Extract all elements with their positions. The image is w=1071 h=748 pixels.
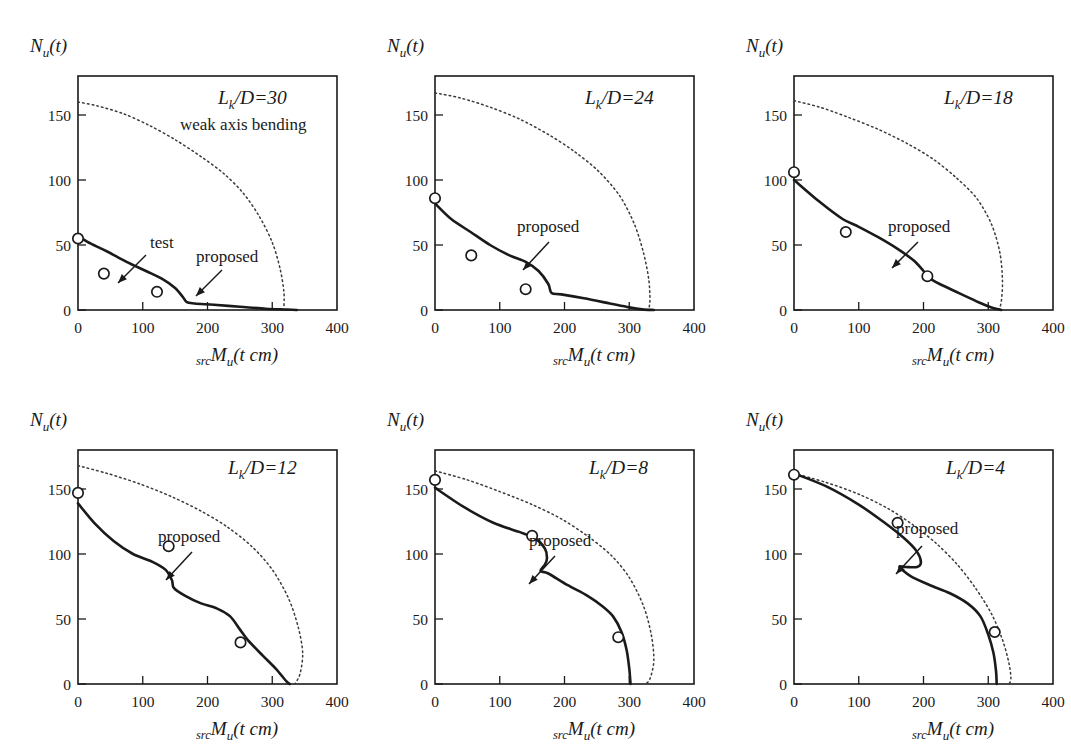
y-axis-title: Nu(t): [29, 35, 67, 60]
axis-ticks: 0501001500100200300400: [764, 481, 1065, 711]
proposed-annotation-arrow: [523, 242, 549, 270]
x-tick-label: 400: [1041, 319, 1065, 336]
panel-label: Lk/D=18: [943, 87, 1013, 112]
y-tick-label: 100: [764, 546, 788, 563]
test-point-marker: [990, 627, 1000, 637]
y-axis-title: Nu(t): [386, 35, 424, 60]
svg-text:Nu(t): Nu(t): [386, 35, 424, 60]
test-point-marker: [841, 227, 851, 237]
svg-text:srcMu(t cm): srcMu(t cm): [912, 344, 994, 369]
test-point-marker: [922, 271, 932, 281]
plot-frame: [794, 450, 1053, 684]
axis-ticks: 0501001500100200300400: [405, 481, 706, 711]
test-points: [430, 475, 624, 643]
y-tick-label: 50: [772, 611, 788, 628]
test-point-marker: [430, 193, 440, 203]
y-axis-title: Nu(t): [745, 35, 783, 60]
y-tick-label: 0: [420, 302, 428, 319]
chart-panel-6: Nu(t)0501001500100200300400srcMu(t cm)Lk…: [716, 374, 1071, 748]
y-tick-label: 50: [56, 611, 72, 628]
y-tick-label: 0: [63, 676, 71, 693]
proposed-annotation-label: proposed: [529, 531, 592, 550]
x-tick-label: 300: [618, 693, 642, 710]
plot-frame: [435, 450, 694, 684]
axis-ticks: 0501001500100200300400: [48, 481, 349, 711]
curve-proposed: [794, 180, 1001, 310]
svg-text:Nu(t): Nu(t): [386, 409, 424, 434]
y-tick-label: 100: [48, 546, 72, 563]
x-tick-label: 100: [847, 319, 871, 336]
proposed-annotation-label: proposed: [896, 519, 959, 538]
x-tick-label: 200: [912, 693, 936, 710]
x-tick-label: 100: [847, 693, 871, 710]
x-tick-label: 200: [196, 693, 220, 710]
y-tick-label: 50: [772, 237, 788, 254]
svg-text:srcMu(t cm): srcMu(t cm): [196, 718, 278, 743]
x-tick-label: 200: [553, 319, 577, 336]
test-points: [73, 233, 162, 297]
svg-text:Lk/D=4: Lk/D=4: [945, 457, 1005, 482]
y-tick-label: 0: [420, 676, 428, 693]
y-tick-label: 0: [779, 302, 787, 319]
curve-weak-axis-bending: [78, 466, 303, 684]
x-axis-title: srcMu(t cm): [196, 718, 278, 743]
plot-frame: [435, 76, 694, 310]
test-points: [789, 470, 1000, 638]
y-axis-title: Nu(t): [29, 409, 67, 434]
x-tick-label: 400: [682, 693, 706, 710]
panel-label: Lk/D=4: [945, 457, 1005, 482]
svg-text:Nu(t): Nu(t): [745, 409, 783, 434]
chart-panel-1: Nu(t)0501001500100200300400srcMu(t cm)Lk…: [0, 0, 357, 374]
chart-panel-5: Nu(t)0501001500100200300400srcMu(t cm)Lk…: [357, 374, 714, 748]
proposed-annotation-label: proposed: [196, 247, 259, 266]
curve-proposed: [794, 473, 997, 684]
y-tick-label: 150: [405, 107, 429, 124]
x-tick-label: 400: [1041, 693, 1065, 710]
curve-proposed: [435, 488, 631, 684]
test-point-marker: [73, 233, 83, 243]
y-tick-label: 100: [405, 546, 429, 563]
axis-ticks: 0501001500100200300400: [48, 107, 349, 337]
panel-label: Lk/D=8: [588, 457, 648, 482]
test-point-marker: [789, 167, 799, 177]
svg-text:Lk/D=30: Lk/D=30: [217, 87, 287, 112]
proposed-annotation-label: proposed: [158, 527, 221, 546]
curve-proposed: [78, 236, 297, 310]
figure-sheet: Nu(t)0501001500100200300400srcMu(t cm)Lk…: [0, 0, 1071, 748]
x-tick-label: 0: [790, 693, 798, 710]
y-tick-label: 150: [764, 107, 788, 124]
x-tick-label: 200: [553, 693, 577, 710]
proposed-annotation-arrow: [896, 546, 922, 574]
y-tick-label: 150: [48, 107, 72, 124]
test-point-marker: [520, 284, 530, 294]
x-tick-label: 100: [131, 693, 155, 710]
x-axis-title: srcMu(t cm): [912, 718, 994, 743]
test-point-marker: [99, 268, 109, 278]
chart-panel-4: Nu(t)0501001500100200300400srcMu(t cm)Lk…: [0, 374, 357, 748]
test-point-marker: [235, 637, 245, 647]
y-tick-label: 150: [48, 481, 72, 498]
panel-label: Lk/D=30: [217, 87, 287, 112]
curve-weak-axis-bending: [794, 473, 1011, 684]
panel-label: Lk/D=24: [584, 87, 654, 112]
svg-text:srcMu(t cm): srcMu(t cm): [553, 344, 635, 369]
y-tick-label: 150: [405, 481, 429, 498]
x-tick-label: 200: [912, 319, 936, 336]
svg-text:srcMu(t cm): srcMu(t cm): [553, 718, 635, 743]
svg-text:Nu(t): Nu(t): [745, 35, 783, 60]
x-tick-label: 0: [431, 319, 439, 336]
x-tick-label: 0: [431, 693, 439, 710]
svg-text:Nu(t): Nu(t): [29, 35, 67, 60]
x-tick-label: 300: [261, 319, 285, 336]
test-point-marker: [73, 488, 83, 498]
x-tick-label: 400: [682, 319, 706, 336]
y-tick-label: 100: [764, 172, 788, 189]
test-point-marker: [613, 632, 623, 642]
proposed-annotation-arrow: [196, 270, 222, 296]
chart-panel-3: Nu(t)0501001500100200300400srcMu(t cm)Lk…: [716, 0, 1071, 374]
svg-text:srcMu(t cm): srcMu(t cm): [912, 718, 994, 743]
x-tick-label: 100: [488, 319, 512, 336]
x-tick-label: 400: [325, 693, 349, 710]
x-tick-label: 300: [618, 319, 642, 336]
proposed-annotation-label: proposed: [517, 217, 580, 236]
